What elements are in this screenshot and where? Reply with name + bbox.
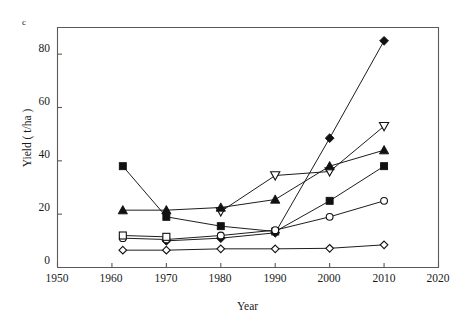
series-line [221, 126, 384, 211]
series-filled-square [119, 163, 387, 235]
data-point-open-diamond [217, 245, 225, 253]
data-point-filled-triangle [379, 146, 388, 154]
series-open-circle [119, 197, 387, 242]
data-point-filled-square [381, 163, 388, 170]
data-point-open-diamond [380, 241, 388, 249]
data-point-filled-square [217, 223, 224, 230]
axis-frame [58, 28, 439, 268]
data-point-open-diamond [326, 245, 334, 253]
data-point-filled-diamond [325, 134, 334, 143]
data-point-filled-square [163, 213, 170, 220]
data-point-open-square [163, 233, 170, 240]
data-point-open-circle [326, 213, 333, 220]
series-line [123, 236, 167, 237]
data-point-open-circle [381, 197, 388, 204]
data-point-filled-square [326, 197, 333, 204]
data-point-filled-diamond [380, 36, 389, 45]
data-point-open-down-triangle [379, 122, 388, 130]
data-point-open-square [119, 232, 126, 239]
plot-area [0, 0, 468, 326]
data-point-open-diamond [119, 246, 127, 254]
data-point-open-circle [272, 227, 279, 234]
data-point-open-diamond [163, 246, 171, 254]
series-line [123, 201, 384, 240]
data-point-open-down-triangle [271, 172, 280, 180]
series-filled-diamond [162, 36, 389, 245]
data-point-filled-square [119, 163, 126, 170]
data-point-filled-triangle [271, 195, 280, 203]
series-open-down-triangle [216, 122, 388, 216]
series-open-diamond [119, 241, 388, 254]
series-line [123, 166, 384, 231]
figure-panel-c: c Yield ( t/ha ) Year 80 60 40 20 0 1950… [0, 0, 468, 326]
series-line [123, 245, 384, 250]
data-point-open-circle [217, 232, 224, 239]
data-point-open-diamond [271, 245, 279, 253]
data-series-layer [118, 36, 388, 254]
